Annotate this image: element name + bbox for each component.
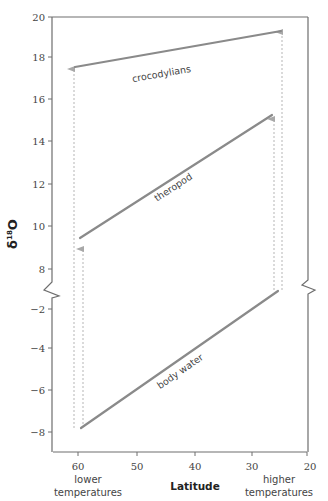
left-axis-line <box>44 17 59 452</box>
y-tick-12: 12 <box>32 179 45 190</box>
chart: 20 18 16 14 12 10 8 −2 −4 −6 −8 60 50 40… <box>0 0 328 501</box>
series-body-water <box>81 291 278 428</box>
y-tick-neg2: −2 <box>30 304 45 315</box>
y-tick-18: 18 <box>32 52 45 63</box>
y-axis-title: δ18O <box>5 219 20 249</box>
y-tick-10: 10 <box>32 221 45 232</box>
lower-temperatures-line2: temperatures <box>54 487 122 498</box>
right-axis-line <box>302 17 315 452</box>
x-tick-60: 60 <box>72 461 85 472</box>
series-theropod <box>80 115 272 238</box>
y-tick-neg4: −4 <box>30 343 45 354</box>
svg-text:δ18O: δ18O <box>5 219 20 249</box>
series-crocodylians <box>75 31 281 67</box>
x-tick-40: 40 <box>189 461 202 472</box>
y-tick-16: 16 <box>32 94 45 105</box>
y-tick-20: 20 <box>32 12 45 23</box>
x-tick-labels: 60 50 40 30 20 <box>72 461 317 472</box>
x-axis-title: Latitude <box>170 480 220 492</box>
y-tick-14: 14 <box>32 136 45 147</box>
y-tick-neg8: −8 <box>30 427 45 438</box>
label-crocodylians: crocodylians <box>131 63 192 84</box>
x-tick-30: 30 <box>246 461 259 472</box>
y-tick-neg6: −6 <box>30 385 45 396</box>
x-tick-50: 50 <box>131 461 144 472</box>
y-tick-8: 8 <box>39 264 45 275</box>
x-tick-20: 20 <box>304 461 317 472</box>
higher-temperatures-line2: temperatures <box>245 487 313 498</box>
higher-temperatures-line1: higher <box>263 474 296 485</box>
lower-temperatures-line1: lower <box>74 474 102 485</box>
y-tick-labels: 20 18 16 14 12 10 8 −2 −4 −6 −8 <box>30 12 45 438</box>
